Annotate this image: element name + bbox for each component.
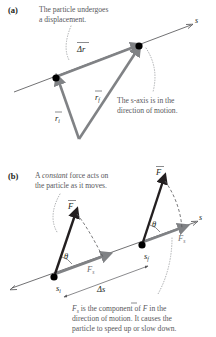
panel-b-caption-top-line2: the particle as it moves.	[35, 181, 107, 190]
panel-b-angle-label-left: θ	[64, 251, 68, 261]
panel-b-projection-left	[77, 214, 103, 257]
panel-a-s-axis-label: s	[195, 16, 198, 25]
panel-a-leader-axis	[146, 48, 155, 92]
panel-b-component-vector-left	[55, 256, 104, 274]
panel-b-leader-force	[53, 194, 60, 232]
panel-b-particle-final	[138, 241, 145, 248]
panel-a-label: (a)	[8, 5, 18, 15]
panel-b-caption-bottom-line3: particle to speed up or slow down.	[72, 324, 176, 333]
physics-figure: (a) The particle undergoes a displacemen…	[0, 0, 216, 337]
panel-a-r-final-label: rf	[95, 92, 101, 103]
panel-b-particle-initial	[50, 273, 57, 280]
panel-b-caption-bottom-line1: Fs is the component of F in the	[71, 304, 167, 314]
panel-b-caption-bottom-line2: direction of motion. It causes the	[72, 314, 173, 323]
panel-b-leader-component	[158, 238, 172, 294]
panel-b-caption-top-line1: A constant force acts on	[35, 171, 109, 180]
panel-b-force-vector-left	[55, 215, 75, 274]
panel-a-r-initial-label: ri	[55, 113, 60, 124]
panel-a-leader-displacement	[66, 26, 71, 60]
panel-b-component-label-right: Fs	[177, 233, 185, 244]
panel-b-displacement-dimension	[64, 266, 148, 297]
panel-b-force-label-left: F	[67, 201, 74, 211]
panel-b-component-label-left: Fs	[86, 264, 94, 275]
panel-a-r-initial-vector	[59, 82, 79, 139]
panel-a: (a) The particle undergoes a displacemen…	[8, 5, 198, 139]
panel-b-angle-label-right: θ	[152, 219, 156, 229]
panel-b: (b) A constant force acts on the particl…	[8, 167, 202, 334]
panel-a-particle-initial	[52, 74, 59, 81]
panel-b-s-axis-label: s	[199, 213, 202, 222]
panel-a-caption-top-line2: a displacement.	[39, 15, 86, 24]
panel-a-caption-right-line2: direction of motion.	[117, 106, 178, 115]
panel-b-displacement-label: Δs	[96, 284, 106, 294]
panel-b-position-final-label: sf	[144, 251, 150, 262]
panel-b-force-label-right: F	[155, 167, 162, 177]
panel-a-caption-top-line1: The particle undergoes	[39, 5, 108, 14]
panel-a-caption-right-line1: The s-axis is in the	[117, 96, 175, 105]
panel-b-label: (b)	[8, 171, 19, 181]
panel-a-particle-final	[135, 42, 142, 49]
panel-b-component-vector-right	[143, 228, 181, 242]
panel-b-projection-right	[165, 181, 182, 229]
panel-b-position-initial-label: si	[56, 283, 61, 294]
panel-a-displacement-label: Δr	[76, 44, 86, 54]
panel-b-force-vector-right	[143, 181, 163, 242]
